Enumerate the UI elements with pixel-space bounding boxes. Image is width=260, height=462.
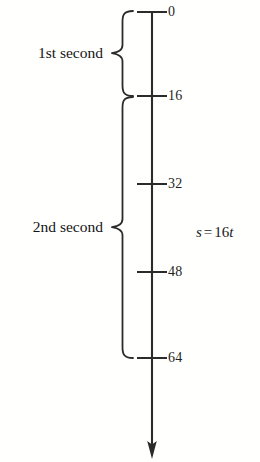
interval-label-1st-second: 1st second <box>38 45 103 61</box>
tick-label-32: 32 <box>168 177 182 191</box>
equation-coefficient: 16 <box>214 224 229 240</box>
equation-variable: t <box>229 224 233 240</box>
brace-2nd-second <box>112 97 133 358</box>
tick-label-16: 16 <box>168 89 182 103</box>
equation-lhs: s <box>196 224 202 240</box>
free-fall-diagram: 0 16 32 48 64 1st second 2nd second s=16… <box>0 0 260 462</box>
tick-label-48: 48 <box>168 265 182 279</box>
brace-1st-second <box>112 11 133 96</box>
tick-label-64: 64 <box>168 351 182 365</box>
interval-label-2nd-second: 2nd second <box>33 219 103 235</box>
equation-operator: = <box>204 224 212 240</box>
tick-label-0: 0 <box>168 5 175 19</box>
equation-distance-formula: s=16t <box>196 225 233 240</box>
